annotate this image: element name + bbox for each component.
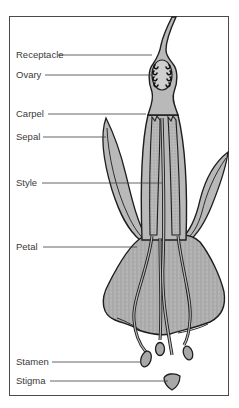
label-style: Style [16, 178, 37, 188]
label-carpel: Carpel [16, 109, 44, 119]
label-petal: Petal [16, 242, 38, 252]
receptacle-ovary [148, 17, 178, 115]
label-sepal: Sepal [16, 132, 40, 142]
flower-diagram [0, 0, 239, 408]
sepal-right [180, 152, 228, 242]
anthers [139, 343, 195, 369]
label-ovary: Ovary [16, 70, 41, 80]
label-stigma: Stigma [16, 376, 46, 386]
label-stamen: Stamen [16, 357, 49, 367]
label-receptacle: Receptacle [16, 50, 64, 60]
stigma [164, 374, 180, 390]
